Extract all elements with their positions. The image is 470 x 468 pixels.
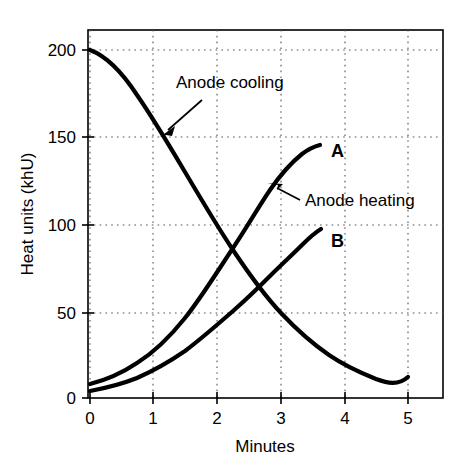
ytick-label-150: 150 [48, 128, 76, 147]
line-chart: 0 50 100 150 200 0 1 2 3 4 5 Minutes Hea… [0, 0, 470, 468]
curve-anode-heating-a [90, 145, 320, 384]
series-label-b: B [331, 231, 344, 251]
annotation-anode-heating: Anode heating [267, 183, 415, 210]
ytick-label-100: 100 [48, 216, 76, 235]
ytick-label-0: 0 [67, 389, 76, 408]
chart-figure: 0 50 100 150 200 0 1 2 3 4 5 Minutes Hea… [0, 0, 470, 468]
ytick-label-50: 50 [57, 304, 76, 323]
xtick-label-2: 2 [212, 409, 221, 428]
x-axis-title: Minutes [235, 437, 295, 456]
x-axis-tick-labels: 0 1 2 3 4 5 [85, 409, 412, 428]
annotation-anode-cooling-text: Anode cooling [176, 73, 284, 92]
xtick-label-0: 0 [85, 409, 94, 428]
curve-anode-heating-b [90, 229, 321, 391]
series-label-a: A [331, 141, 344, 161]
annotation-anode-cooling-leader [168, 100, 202, 130]
curve-anode-cooling [90, 50, 408, 383]
y-axis-tick-labels: 0 50 100 150 200 [48, 41, 76, 408]
annotation-anode-cooling: Anode cooling [160, 73, 284, 137]
xtick-label-1: 1 [148, 409, 157, 428]
xtick-label-4: 4 [340, 409, 349, 428]
ytick-label-200: 200 [48, 41, 76, 60]
annotation-anode-heating-text: Anode heating [305, 191, 415, 210]
y-axis-title: Heat units (khU) [18, 153, 37, 276]
xtick-label-3: 3 [276, 409, 285, 428]
xtick-label-5: 5 [403, 409, 412, 428]
